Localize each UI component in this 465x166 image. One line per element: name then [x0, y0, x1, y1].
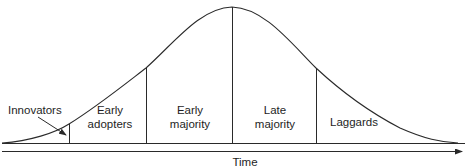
label-laggards: Laggards — [330, 115, 378, 129]
label-early-adopters: Early adopters — [80, 103, 140, 131]
label-late-majority: Late majority — [245, 103, 305, 131]
bell-curve-diagram — [0, 0, 465, 166]
label-innovators: Innovators — [8, 103, 62, 117]
bell-curve — [2, 7, 458, 143]
label-early-majority: Early majority — [160, 103, 220, 131]
x-axis-label-time: Time — [225, 155, 265, 166]
